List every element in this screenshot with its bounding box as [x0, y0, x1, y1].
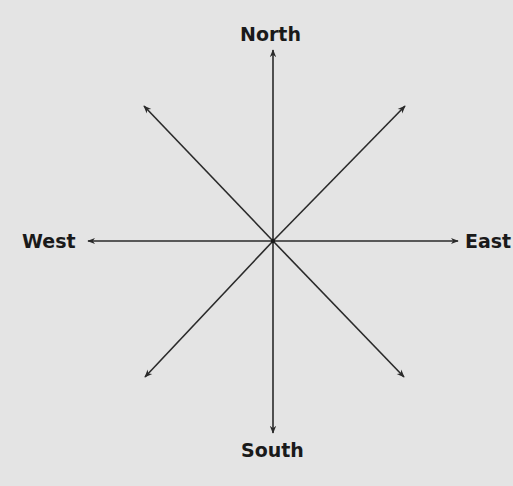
- label-east: East: [465, 232, 511, 251]
- compass-diagram: [0, 0, 513, 486]
- arrow-southwest: [145, 241, 273, 377]
- arrow-southeast: [273, 241, 404, 377]
- center-point: [271, 239, 275, 243]
- label-west: West: [22, 232, 76, 251]
- label-south: South: [241, 441, 304, 460]
- arrow-northeast: [273, 106, 405, 241]
- arrow-northwest: [144, 106, 273, 241]
- label-north: North: [240, 25, 301, 44]
